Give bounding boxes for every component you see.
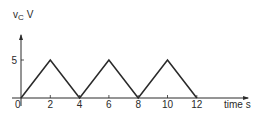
series [21, 60, 197, 98]
triangle-wave-chart: 246810125 vCV time s 0 [0, 0, 268, 115]
x-tick-label: 4 [77, 99, 83, 110]
y-axis-label: vCV [13, 9, 34, 22]
origin-label: 0 [15, 99, 21, 110]
y-axis-arrow [19, 34, 23, 40]
y-axis-label-sub: C [18, 13, 24, 22]
x-tick-label: 12 [191, 99, 203, 110]
series-line-vC [21, 60, 197, 98]
x-tick-label: 2 [48, 99, 54, 110]
y-axis-label-unit: V [27, 9, 34, 20]
y-tick-label: 5 [11, 55, 17, 66]
x-tick-label: 10 [162, 99, 174, 110]
axes [12, 34, 249, 106]
x-tick-label: 8 [135, 99, 141, 110]
x-axis-label: time s [224, 99, 251, 110]
x-tick-label: 6 [106, 99, 112, 110]
